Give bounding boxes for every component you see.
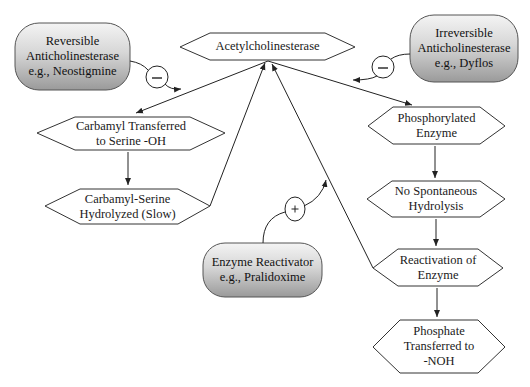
node-label-line: e.g., Dyflos <box>435 56 493 71</box>
node-label-line: Anticholinesterase <box>417 41 510 56</box>
node-label-line: Enzyme <box>418 268 459 283</box>
node-no-spontaneous-hydrolysis: No Spontaneous Hydrolysis <box>367 181 505 217</box>
node-acetylcholinesterase: Acetylcholinesterase <box>180 33 355 60</box>
node-label-line: e.g., Neostigmine <box>28 64 116 79</box>
node-carbamyl-hydrolyzed: Carbamyl-Serine Hydrolyzed (Slow) <box>45 189 210 224</box>
node-label-line: Carbamyl-Serine <box>85 192 170 207</box>
irreversible-inhibit-connector <box>391 54 410 59</box>
node-label-line: Anticholinesterase <box>26 49 119 64</box>
node-enzyme-reactivator: Enzyme Reactivator e.g., Pralidoxime <box>203 243 322 297</box>
node-phosphorylated-enzyme: Phosphorylated Enzyme <box>368 107 505 144</box>
node-label-line: Irreversible <box>435 26 493 41</box>
node-reversible-anticholinesterase: Reversible Anticholinesterase e.g., Neos… <box>15 23 130 90</box>
node-carbamyl-transferred: Carbamyl Transferred to Serine -OH <box>37 117 225 150</box>
reversible-minus-circle <box>146 66 168 88</box>
node-label-line: Reversible <box>46 34 99 49</box>
reversible-inhibit-arrow <box>165 84 181 89</box>
node-phosphate-transferred: Phosphate Transferred to -NOH <box>373 320 505 373</box>
node-label-line: Acetylcholinesterase <box>215 39 319 54</box>
node-label-line: Hydrolysis <box>409 199 464 214</box>
node-label-line: to Serine -OH <box>96 134 166 149</box>
irreversible-minus-circle <box>372 56 394 78</box>
node-label-line: e.g., Pralidoxime <box>220 270 305 285</box>
node-label-line: Hydrolyzed (Slow) <box>79 207 175 222</box>
node-label-line: Enzyme Reactivator <box>212 255 314 270</box>
node-reactivation-of-enzyme: Reactivation of Enzyme <box>373 249 503 286</box>
reactivator-promote-connector <box>263 212 285 243</box>
node-label-line: Transferred to <box>404 339 475 354</box>
node-label-line: -NOH <box>423 354 454 369</box>
reactivator-promote-arrow <box>304 180 326 206</box>
node-label-line: Reactivation of <box>400 253 477 268</box>
irreversible-inhibit-arrow <box>353 76 377 80</box>
reversible-inhibit-connector <box>130 61 148 70</box>
edge-reactivation-to-ache <box>272 64 373 268</box>
node-label-line: Phosphate <box>413 324 464 339</box>
node-label-line: Carbamyl Transferred <box>76 119 186 134</box>
node-label-line: Phosphorylated <box>398 111 476 126</box>
node-irreversible-anticholinesterase: Irreversible Anticholinesterase e.g., Dy… <box>410 15 518 82</box>
node-label-line: No Spontaneous <box>395 184 477 199</box>
node-label-line: Enzyme <box>416 126 457 141</box>
